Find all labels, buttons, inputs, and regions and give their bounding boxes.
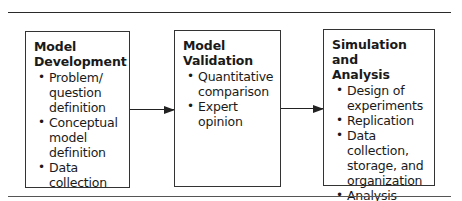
bullet-icon: •: [38, 160, 45, 175]
item-line: definition: [49, 145, 123, 160]
box-title: Model Development: [34, 39, 123, 69]
list-item: • Expert opinion: [186, 99, 274, 129]
item-line: collection: [49, 175, 123, 190]
list-item: • Data collection: [37, 160, 123, 190]
title-line: Model: [183, 38, 274, 53]
box-title: Simulation and Analysis: [332, 37, 428, 82]
item-line: Conceptual: [49, 115, 123, 130]
title-line: Analysis: [332, 67, 428, 82]
item-line: model: [49, 130, 123, 145]
title-line: Validation: [183, 53, 274, 68]
bullet-icon: •: [38, 115, 45, 130]
list-item: • Analysis: [335, 188, 428, 201]
item-line: storage, and: [347, 158, 428, 173]
item-line: Data: [49, 160, 123, 175]
bullet-icon: •: [336, 113, 343, 128]
list-item: • Replication: [335, 113, 428, 128]
item-line: Design of: [347, 83, 428, 98]
item-line: Quantitative: [198, 69, 274, 84]
bullet-icon: •: [187, 69, 194, 84]
item-line: Replication: [347, 113, 428, 128]
bullet-icon: •: [187, 99, 194, 114]
bullet-icon: •: [336, 83, 343, 98]
bottom-rule: [8, 196, 451, 197]
item-line: comparison: [198, 84, 274, 99]
list-item: • Design of experiments: [335, 83, 428, 113]
list-item: • Quantitative comparison: [186, 69, 274, 99]
item-line: experiments: [347, 98, 428, 113]
arrow-validation-to-simulation: [281, 108, 323, 109]
list-item: • Problem/ question definition: [37, 70, 123, 115]
list-item: • Data collection, storage, and organiza…: [335, 128, 428, 188]
title-line: Simulation and: [332, 37, 428, 67]
item-line: definition: [49, 100, 123, 115]
item-line: opinion: [198, 114, 274, 129]
box-simulation-and-analysis: Simulation and Analysis • Design of expe…: [323, 29, 435, 186]
title-line: Model: [34, 39, 123, 54]
arrow-dev-to-validation: [130, 109, 174, 110]
item-line: Data: [347, 128, 428, 143]
item-line: organization: [347, 173, 428, 188]
item-list: • Quantitative comparison • Expert opini…: [183, 69, 274, 129]
top-rule: [8, 12, 451, 13]
item-line: Expert: [198, 99, 274, 114]
item-list: • Problem/ question definition • Concept…: [34, 70, 123, 190]
bullet-icon: •: [336, 128, 343, 143]
item-line: Problem/: [49, 70, 123, 85]
item-list: • Design of experiments • Replication • …: [332, 83, 428, 201]
box-model-validation: Model Validation • Quantitative comparis…: [174, 30, 281, 187]
bullet-icon: •: [336, 188, 343, 201]
bullet-icon: •: [38, 70, 45, 85]
box-title: Model Validation: [183, 38, 274, 68]
item-line: Analysis: [347, 188, 428, 201]
title-line: Development: [34, 54, 123, 69]
item-line: question: [49, 85, 123, 100]
item-line: collection,: [347, 143, 428, 158]
box-model-development: Model Development • Problem/ question de…: [25, 31, 130, 188]
list-item: • Conceptual model definition: [37, 115, 123, 160]
